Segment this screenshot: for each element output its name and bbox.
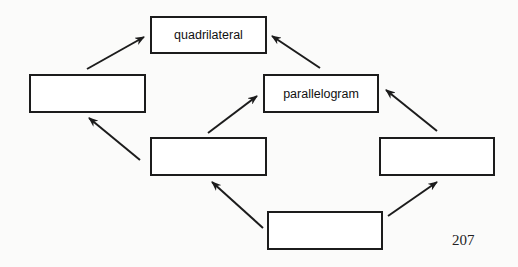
page-number: 207: [452, 232, 475, 249]
edge-mid-to-para: [208, 96, 257, 133]
node-label: parallelogram: [283, 87, 359, 101]
node-blank-bottom: [267, 211, 383, 250]
edge-bot-to-right: [388, 182, 437, 216]
edge-right-to-para: [386, 90, 437, 131]
node-blank-middle: [150, 137, 267, 176]
edge-bot-to-mid: [212, 182, 263, 228]
node-quadrilateral: quadrilateral: [150, 16, 267, 54]
edge-left-to-quad: [87, 37, 144, 69]
edge-para-to-quad: [272, 36, 320, 68]
node-label: quadrilateral: [174, 28, 243, 42]
node-parallelogram: parallelogram: [263, 74, 379, 113]
node-blank-right: [379, 137, 495, 176]
edge-mid-to-left: [89, 118, 140, 160]
node-blank-left: [29, 74, 146, 113]
